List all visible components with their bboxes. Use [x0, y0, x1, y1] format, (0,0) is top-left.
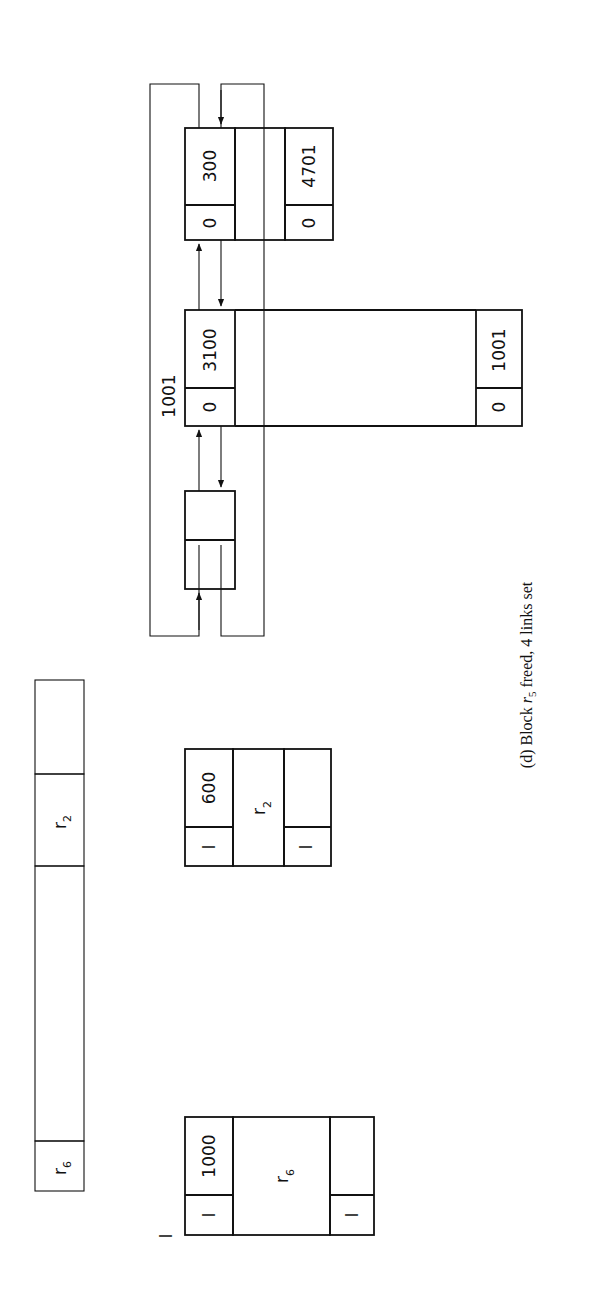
boundary-tag-diagram: r2 r6 1000 I r6 I I 600 I r2 I: [0, 0, 598, 1305]
block-300-tail-flag: 0: [299, 218, 319, 229]
r2-head-flag: I: [199, 844, 219, 849]
forward-link-loop: [221, 84, 264, 636]
r2-head-size: 600: [199, 772, 219, 804]
r2-body-label: r2: [249, 801, 274, 815]
block-300-body: [235, 128, 285, 240]
block-300-size: 300: [200, 150, 220, 182]
block-3100-size: 3100: [200, 328, 220, 371]
strip-label-r6: r6: [50, 1161, 74, 1175]
block-300-tail-size: 4701: [299, 144, 319, 187]
block-3100-tail-size: 1001: [489, 328, 509, 371]
strip-segment-free-hatched: [35, 866, 84, 1141]
block-r6: 1000 I r6 I: [185, 1117, 374, 1235]
r6-body-label: r6: [272, 1169, 297, 1183]
r6-tail-flag: I: [342, 1212, 362, 1217]
block-r2: 600 I r2 I: [185, 749, 331, 866]
r6-head-size: 1000: [199, 1134, 219, 1177]
free-pointer-label: 1001: [159, 374, 179, 417]
figure-caption: (d) Block r5 freed, 4 links set: [518, 581, 538, 768]
stray-mark: I: [156, 1233, 176, 1238]
back-link-loop: [150, 84, 199, 636]
strip-segment-r6: [35, 1141, 84, 1191]
r6-head-flag: I: [199, 1212, 219, 1217]
strip-label-r2: r2: [50, 815, 74, 829]
strip-segment-r2-tail-hatched: [35, 680, 84, 774]
block-3100-tail-flag: 0: [489, 402, 509, 413]
block-300-flag: 0: [200, 218, 220, 229]
free-list: 3100 0 1001 0 1001 300 0 4701 0: [150, 84, 522, 636]
r2-body: [233, 749, 284, 866]
r2-tail-flag: I: [296, 844, 316, 849]
strip-segment-r2: [35, 774, 84, 866]
memory-strip: r2 r6: [35, 680, 84, 1191]
r6-body: [233, 1117, 330, 1235]
block-3100-flag: 0: [200, 402, 220, 413]
